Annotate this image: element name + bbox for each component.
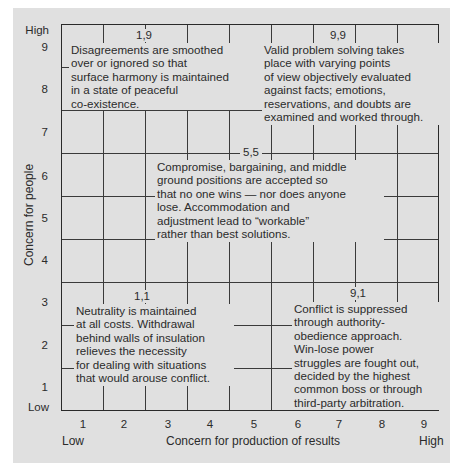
x-tick-6: 6 [288, 418, 308, 430]
x-tick-1: 1 [73, 418, 93, 430]
style-9-1-description: Conflict is suppressed through authority… [292, 302, 442, 410]
x-tick-8: 8 [372, 418, 392, 430]
x-tick-7: 7 [329, 418, 349, 430]
style-1-1-description: Neutrality is maintained at all costs. W… [74, 304, 234, 386]
y-tick-9: 9 [18, 41, 48, 53]
style-9-9-label: 9,9 [327, 29, 349, 42]
style-5-5-description: Compromise, bargaining, and middle groun… [155, 160, 384, 242]
x-tick-9: 9 [414, 418, 434, 430]
x-tick-5: 5 [244, 418, 264, 430]
style-1-9-description: Disagreements are smoothed over or ignor… [69, 43, 263, 110]
y-axis-title: Concern for people [22, 164, 36, 266]
y-tick-8: 8 [18, 83, 48, 95]
style-9-9-description: Valid problem solving takes place with v… [262, 43, 442, 125]
x-axis-high-label: High [419, 434, 444, 448]
y-axis-low-label: Low [19, 401, 49, 413]
x-axis-title: Concern for production of results [166, 434, 340, 448]
y-axis-high-label: High [19, 24, 49, 36]
y-tick-2: 2 [18, 339, 48, 351]
style-1-1-label: 1,1 [131, 290, 153, 303]
x-tick-3: 3 [158, 418, 178, 430]
x-axis-low-label: Low [62, 434, 84, 448]
grid-hline [62, 282, 438, 283]
style-1-9-label: 1,9 [133, 29, 155, 42]
x-tick-2: 2 [114, 418, 134, 430]
style-9-1-label: 9,1 [347, 287, 369, 300]
y-tick-3: 3 [18, 296, 48, 308]
style-5-5-label: 5,5 [240, 146, 262, 159]
y-tick-1: 1 [18, 381, 48, 393]
x-tick-4: 4 [200, 418, 220, 430]
y-tick-7: 7 [18, 126, 48, 138]
